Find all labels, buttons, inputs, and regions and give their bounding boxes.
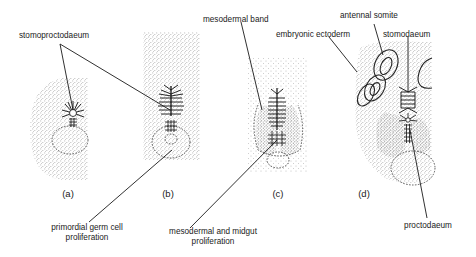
label-embryonic-ectoderm: embryonic ectoderm — [276, 30, 350, 39]
embryo-c-body — [248, 58, 308, 172]
label-antennal-somite: antennal somite — [340, 11, 398, 20]
panel-a: (a) — [30, 78, 88, 199]
label-mesodermal-midgut: mesodermal and midgut — [169, 227, 258, 236]
panel-label-c: (c) — [272, 188, 283, 199]
label-mesodermal-band: mesodermal band — [203, 15, 269, 24]
label-stomodaeum: stomodaeum — [383, 30, 431, 39]
panel-b: (b) — [143, 32, 200, 199]
label-primordial-germ-cell-2: proliferation — [66, 233, 109, 242]
embryo-d-body — [355, 41, 432, 183]
label-stomoproctodaeum: stomoproctodaeum — [19, 31, 89, 40]
label-proctodaeum: proctodaeum — [404, 221, 452, 230]
panel-c: (c) — [248, 58, 308, 199]
panel-d: (d) — [354, 41, 435, 199]
panel-label-b: (b) — [162, 188, 174, 199]
mesodermal-band-left — [256, 105, 278, 155]
panel-label-a: (a) — [62, 188, 74, 199]
embryo-development-diagram: (a) (b) — [0, 0, 476, 257]
panel-label-d: (d) — [358, 188, 370, 199]
label-primordial-germ-cell: primordial germ cell — [51, 223, 123, 232]
label-mesodermal-midgut-2: proliferation — [192, 237, 235, 246]
